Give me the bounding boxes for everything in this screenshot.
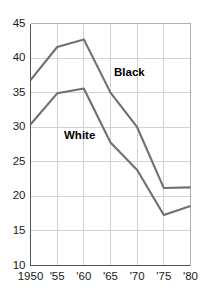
x-tick-label: 1950 [18, 270, 44, 282]
x-tick-label: '80 [183, 270, 198, 282]
y-tick-label: 20 [13, 189, 26, 201]
y-tick-label: 35 [13, 86, 26, 98]
x-tick-label: '65 [103, 270, 118, 282]
chart-canvas: 4540353025201510 1950'55'60'65'70'75'80 … [0, 0, 200, 291]
y-tick-label: 45 [13, 17, 26, 29]
x-tick-label: '70 [130, 270, 145, 282]
y-tick-label: 25 [13, 155, 26, 167]
x-tick-label: '55 [50, 270, 65, 282]
y-tick-label: 40 [13, 51, 26, 63]
series-label-white: White [64, 129, 95, 141]
line-chart: 4540353025201510 1950'55'60'65'70'75'80 … [0, 0, 200, 291]
y-tick-label: 15 [13, 224, 26, 236]
y-tick-label: 30 [13, 120, 26, 132]
series-label-black: Black [114, 66, 145, 78]
x-tick-label: '60 [76, 270, 91, 282]
x-tick-label: '75 [156, 270, 171, 282]
